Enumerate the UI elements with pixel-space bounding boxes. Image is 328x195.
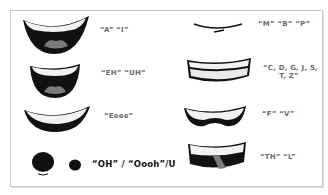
mouth-oooh-icon — [68, 158, 82, 172]
mouth-eh-uh-icon — [28, 62, 82, 100]
label-th-l: “TH” “L” — [260, 153, 296, 161]
mouth-cdgjstz-icon — [184, 56, 254, 86]
label-cdgjstz-line1: “C, D, G, J, S, — [263, 64, 315, 72]
label-cdgjstz: “C, D, G, J, S, T, Z” — [263, 64, 315, 80]
label-eeee: “Eeee” — [104, 112, 133, 120]
label-eh-uh: “EH” “UH” — [101, 69, 146, 77]
mouth-th-l-icon — [186, 140, 248, 172]
mouth-f-v-icon — [182, 104, 248, 130]
label-m-b-p: “M” “B” “P” — [258, 20, 310, 28]
mouth-a-i-icon — [20, 14, 92, 56]
label-f-v: “F” “V” — [262, 110, 294, 118]
mouth-m-b-p-icon — [192, 18, 244, 36]
label-a-i: “A” “I” — [100, 26, 129, 34]
label-cdgjstz-line2: T, Z” — [263, 72, 315, 80]
mouth-oh-icon — [30, 150, 56, 176]
mouth-eeee-icon — [22, 104, 92, 134]
label-oh-oooh-u: “OH” / “Oooh”/U — [92, 159, 176, 169]
